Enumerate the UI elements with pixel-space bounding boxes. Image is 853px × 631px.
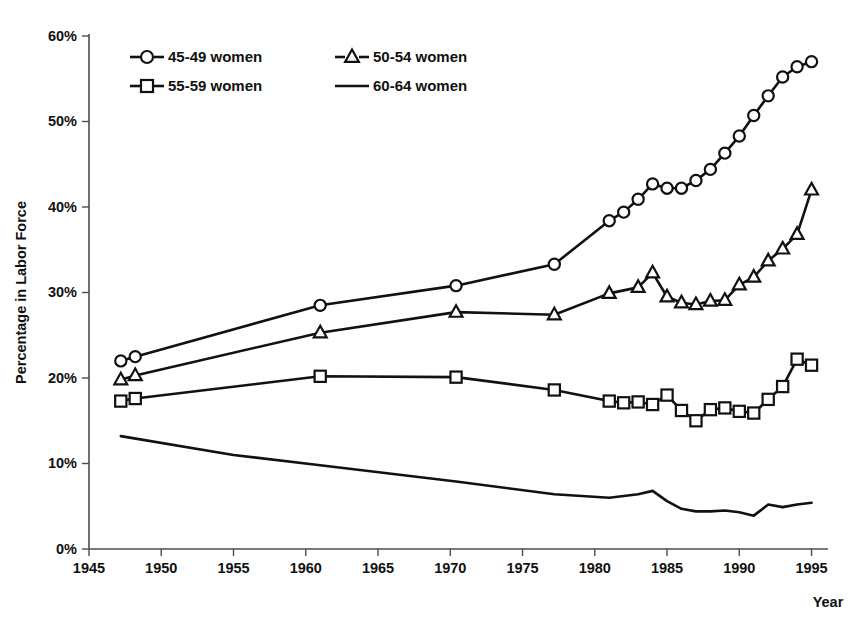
x-tick-label: 1950 — [145, 560, 177, 576]
legend-label: 45-49 women — [168, 48, 262, 65]
y-tick-label: 30% — [48, 284, 77, 300]
data-point-marker — [676, 183, 687, 194]
y-tick-label: 60% — [48, 28, 77, 44]
data-point-marker — [604, 395, 615, 406]
data-point-marker — [618, 207, 629, 218]
data-point-marker — [130, 351, 141, 362]
data-point-marker — [806, 56, 817, 67]
legend-label: 60-64 women — [373, 77, 467, 94]
y-axis-title: Percentage in Labor Force — [13, 201, 29, 384]
data-point-marker — [705, 404, 716, 415]
data-point-marker — [661, 183, 672, 194]
legend-marker-triangle — [345, 50, 359, 62]
data-point-marker — [450, 372, 461, 383]
data-point-marker — [115, 395, 126, 406]
series-path — [121, 190, 812, 380]
data-point-marker — [315, 300, 326, 311]
series-path — [121, 62, 812, 361]
data-point-marker — [633, 396, 644, 407]
chart-container: 45-49 women50-54 women55-59 women60-64 w… — [0, 0, 853, 631]
x-tick-label: 1995 — [795, 560, 827, 576]
data-point-marker — [115, 355, 126, 366]
x-tick-label: 1985 — [651, 560, 683, 576]
data-point-marker — [450, 280, 461, 291]
legend-layer: 45-49 women50-54 women55-59 women60-64 w… — [130, 48, 467, 94]
legend-item-55-59-women[interactable]: 55-59 women — [130, 77, 262, 94]
series-path — [121, 436, 812, 516]
data-point-marker — [690, 175, 701, 186]
legend-item-60-64-women[interactable]: 60-64 women — [335, 77, 467, 94]
x-tick-label: 1990 — [723, 560, 755, 576]
data-point-marker — [647, 178, 658, 189]
data-point-marker — [618, 397, 629, 408]
line-chart: 45-49 women50-54 women55-59 women60-64 w… — [0, 0, 853, 631]
data-point-marker — [690, 415, 701, 426]
x-axis-title: Year — [813, 594, 844, 610]
data-point-marker — [806, 360, 817, 371]
data-point-marker — [734, 130, 745, 141]
y-tick-label: 0% — [56, 541, 77, 557]
axes-layer — [82, 34, 828, 556]
legend-label: 50-54 women — [373, 48, 467, 65]
series-55-59-women — [115, 354, 817, 427]
data-point-marker — [719, 402, 730, 413]
data-point-marker — [791, 354, 802, 365]
data-point-marker — [549, 384, 560, 395]
y-tick-label: 50% — [48, 113, 77, 129]
legend-marker-square — [141, 80, 153, 92]
data-point-marker — [791, 227, 804, 239]
series-layer — [114, 56, 818, 516]
x-tick-label: 1955 — [217, 560, 249, 576]
data-point-marker — [763, 394, 774, 405]
legend-item-50-54-women[interactable]: 50-54 women — [335, 48, 467, 65]
x-tick-label: 1975 — [506, 560, 538, 576]
series-45-49-women — [115, 56, 817, 366]
data-point-marker — [647, 399, 658, 410]
data-point-marker — [676, 405, 687, 416]
data-point-marker — [777, 381, 788, 392]
data-point-marker — [805, 183, 818, 195]
data-point-marker — [604, 215, 615, 226]
x-tick-label: 1945 — [73, 560, 105, 576]
data-point-marker — [748, 407, 759, 418]
data-point-marker — [791, 61, 802, 72]
data-point-marker — [549, 259, 560, 270]
data-point-marker — [705, 164, 716, 175]
data-point-marker — [315, 371, 326, 382]
data-point-marker — [646, 266, 659, 278]
data-point-marker — [734, 406, 745, 417]
y-tick-label: 40% — [48, 199, 77, 215]
series-60-64-women — [121, 436, 812, 516]
x-tick-label: 1965 — [362, 560, 394, 576]
legend-item-45-49-women[interactable]: 45-49 women — [130, 48, 262, 65]
x-tick-label: 1960 — [290, 560, 322, 576]
data-point-marker — [719, 148, 730, 159]
data-point-marker — [763, 90, 774, 101]
x-tick-label: 1980 — [579, 560, 611, 576]
data-point-marker — [130, 393, 141, 404]
data-point-marker — [633, 194, 644, 205]
data-point-marker — [777, 71, 788, 82]
x-tick-label: 1970 — [434, 560, 466, 576]
data-point-marker — [450, 305, 463, 317]
y-tick-label: 10% — [48, 455, 77, 471]
axis-labels-layer: 0%10%20%30%40%50%60%19451950195519601965… — [13, 28, 844, 610]
legend-marker-circle — [141, 51, 153, 63]
data-point-marker — [748, 110, 759, 121]
y-tick-label: 20% — [48, 370, 77, 386]
legend-label: 55-59 women — [168, 77, 262, 94]
data-point-marker — [661, 390, 672, 401]
